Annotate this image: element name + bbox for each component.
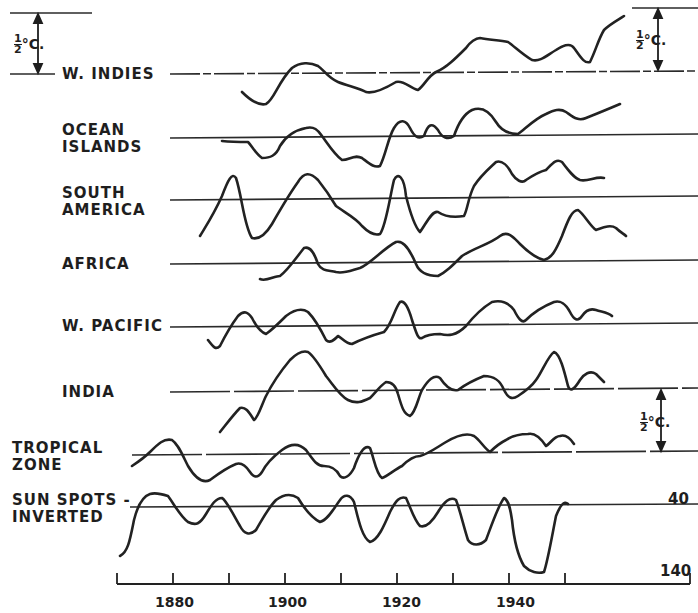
sunspot-scale-top: 40 [668, 490, 689, 508]
label-south-america-line1: SOUTH [62, 185, 126, 202]
label-ocean-islands-line2: ISLANDS [62, 139, 142, 156]
label-sun-spots-line1: SUN SPOTS - [12, 492, 131, 509]
baseline-south-america [170, 196, 698, 200]
x-axis [117, 573, 690, 584]
label-tropical-zone-line2: ZONE [12, 457, 62, 474]
label-africa: AFRICA [62, 256, 130, 273]
label-sun-spots-line2: INVERTED [12, 509, 104, 526]
label-w-indies: W. INDIES [62, 66, 154, 83]
x-tick-1880: 1880 [155, 594, 194, 610]
baseline-w-pacific [170, 323, 698, 327]
baseline-africa [170, 260, 698, 264]
curve-w-indies [242, 16, 624, 104]
scale-label-left: 12°C. [14, 34, 44, 55]
scale-label-right-top: 12°C. [636, 30, 666, 51]
label-south-america-line2: AMERICA [62, 202, 146, 219]
baseline-sun-spots [130, 504, 698, 507]
scale-label-right-bottom: 12°C. [640, 412, 670, 433]
curve-tropical-zone [132, 434, 574, 481]
baseline-india [170, 388, 698, 392]
baseline-ocean-islands [170, 134, 698, 138]
chart-canvas [0, 0, 698, 613]
x-tick-1940: 1940 [496, 594, 535, 610]
label-w-pacific: W. PACIFIC [62, 318, 163, 335]
x-tick-1920: 1920 [382, 594, 421, 610]
x-tick-1900: 1900 [268, 594, 307, 610]
baseline-tropical-zone [132, 451, 698, 455]
curve-africa [260, 210, 626, 280]
label-tropical-zone-line1: TROPICAL [12, 440, 103, 457]
label-ocean-islands-line1: OCEAN [62, 122, 125, 139]
label-india: INDIA [62, 384, 115, 401]
sunspot-scale-bottom: 140 [660, 562, 691, 580]
